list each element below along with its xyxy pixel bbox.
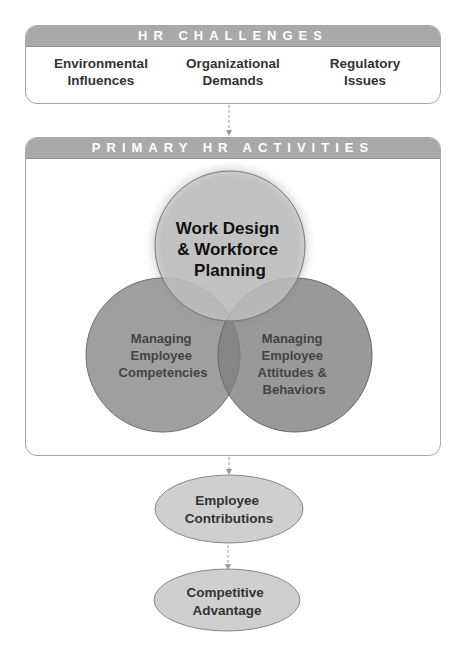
diagram-graphics: Work Design & Workforce Planning Managin… <box>0 0 465 650</box>
competitive-advantage-ellipse <box>154 569 300 631</box>
employee-contributions-ellipse <box>155 475 303 543</box>
left-circle-label: Managing Employee Competencies <box>119 331 208 380</box>
